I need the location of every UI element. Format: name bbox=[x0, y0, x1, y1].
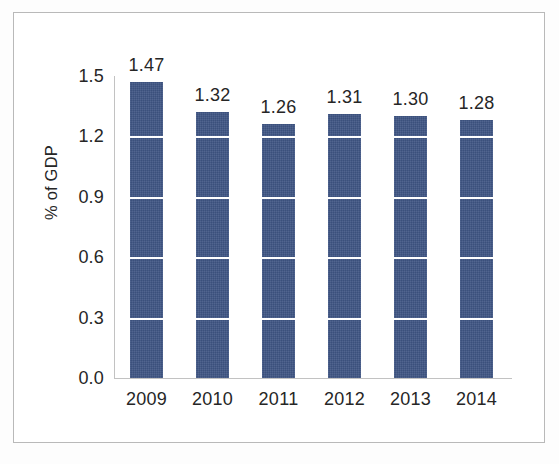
bar-2011[interactable] bbox=[262, 124, 295, 378]
gridline bbox=[115, 257, 512, 259]
x-tick-label-2011: 2011 bbox=[259, 389, 299, 410]
gridline bbox=[115, 136, 512, 138]
x-tick-label-2010: 2010 bbox=[192, 389, 233, 410]
y-tick-label: 0.0 bbox=[78, 368, 104, 389]
y-tick-label: 0.9 bbox=[78, 187, 104, 208]
figure-frame: % of GDP 1.5 1.2 0.9 0.6 0.3 0.0 bbox=[13, 12, 545, 443]
y-tick-label: 0.6 bbox=[78, 247, 104, 268]
bar-value-label: 1.30 bbox=[393, 89, 429, 110]
bar-2014[interactable] bbox=[460, 120, 493, 378]
bar-2013[interactable] bbox=[394, 116, 427, 378]
plot-area: 1.5 1.2 0.9 0.6 0.3 0.0 1.47 bbox=[114, 63, 512, 378]
x-axis-line bbox=[114, 378, 512, 379]
x-tick-label-2012: 2012 bbox=[324, 389, 365, 410]
bar-2010[interactable] bbox=[196, 112, 229, 378]
bar-value-label: 1.47 bbox=[129, 55, 165, 76]
y-tick-label: 1.5 bbox=[78, 66, 104, 87]
y-tick-label: 0.3 bbox=[78, 308, 104, 329]
bar-value-label: 1.31 bbox=[327, 87, 363, 108]
bar-value-label: 1.28 bbox=[459, 93, 495, 114]
x-tick-label-2009: 2009 bbox=[126, 389, 167, 410]
y-tick-label: 1.2 bbox=[78, 126, 104, 147]
bar-2012[interactable] bbox=[328, 114, 361, 378]
bar-2009[interactable] bbox=[130, 82, 163, 378]
bar-value-label: 1.32 bbox=[195, 85, 231, 106]
gridline bbox=[115, 318, 512, 320]
page-background: % of GDP 1.5 1.2 0.9 0.6 0.3 0.0 bbox=[0, 0, 559, 464]
gridline bbox=[115, 197, 512, 199]
bar-chart: % of GDP 1.5 1.2 0.9 0.6 0.3 0.0 bbox=[14, 13, 546, 444]
y-axis-title: % of GDP bbox=[42, 113, 61, 253]
x-tick-label-2013: 2013 bbox=[390, 389, 431, 410]
bar-value-label: 1.26 bbox=[261, 97, 297, 118]
x-tick-label-2014: 2014 bbox=[456, 389, 497, 410]
y-axis-line bbox=[114, 76, 115, 378]
